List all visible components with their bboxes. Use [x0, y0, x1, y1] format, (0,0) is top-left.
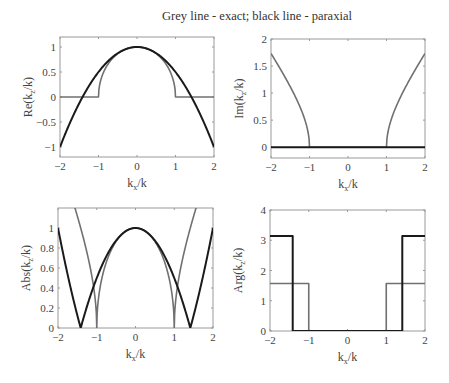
- series-paraxial-line: [60, 47, 214, 147]
- axes-box: [271, 39, 425, 158]
- series-exact-line: [60, 47, 214, 97]
- figure: Grey line - exact; black line - paraxial…: [0, 0, 449, 383]
- plot-imaginary-part: −2−101200.511.52kx/kIm(kz/k): [232, 33, 428, 193]
- y-tick-label: 1: [49, 222, 55, 234]
- y-tick-label: 1: [262, 87, 268, 99]
- x-axis-label: kx/k: [127, 176, 146, 192]
- series-paraxial-line: [58, 228, 213, 327]
- x-axis-label: kx/k: [126, 347, 145, 363]
- plot-absolute-value: −2−101200.20.40.60.81kx/kAbs(kz/k): [19, 155, 216, 363]
- axes-box: [58, 208, 213, 328]
- y-tick-label: 0: [49, 322, 55, 334]
- y-tick-label: 0.6: [40, 262, 54, 274]
- x-tick-label: 1: [173, 160, 179, 172]
- series-paraxial-line: [270, 236, 425, 331]
- x-axis-label: kx/k: [338, 350, 357, 366]
- y-axis-label: Abs(kz/k): [19, 245, 35, 291]
- x-tick-label: −1: [93, 160, 105, 172]
- series-exact-line: [271, 53, 425, 147]
- x-tick-label: 0: [134, 160, 140, 172]
- y-tick-label: 2: [261, 265, 267, 277]
- y-tick-label: 2: [262, 33, 268, 45]
- x-tick-label: 2: [211, 160, 217, 172]
- y-tick-label: 0.5: [42, 66, 56, 78]
- plot-real-part: −2−1012−1−0.500.51kx/kRe(kz/k): [21, 37, 217, 192]
- y-tick-label: 3: [261, 234, 267, 246]
- y-axis-label: Re(kz/k): [21, 77, 37, 117]
- x-tick-label: −1: [91, 331, 103, 343]
- y-axis-label: Arg(kz/k): [231, 248, 247, 293]
- y-tick-label: 1: [261, 295, 267, 307]
- y-tick-label: 0.4: [40, 282, 54, 294]
- y-tick-label: 0: [261, 325, 267, 337]
- y-tick-label: −0.5: [36, 116, 56, 128]
- y-tick-label: 0.2: [40, 302, 54, 314]
- x-tick-label: 1: [384, 334, 390, 346]
- x-tick-label: 0: [345, 161, 351, 173]
- x-tick-label: 1: [172, 331, 178, 343]
- y-tick-label: 0: [262, 141, 268, 153]
- x-tick-label: 2: [422, 161, 428, 173]
- plot-argument: −2−101201234kx/kArg(kz/k): [231, 204, 428, 366]
- y-tick-label: 4: [261, 204, 267, 216]
- x-tick-label: 0: [133, 331, 139, 343]
- y-tick-label: −1: [44, 141, 56, 153]
- x-tick-label: 0: [345, 334, 351, 346]
- x-tick-label: 2: [422, 334, 428, 346]
- x-axis-label: kx/k: [338, 177, 357, 193]
- y-tick-label: 0.5: [253, 114, 267, 126]
- y-tick-label: 1.5: [253, 60, 267, 72]
- x-tick-label: −2: [265, 161, 277, 173]
- y-tick-label: 1: [51, 41, 57, 53]
- x-tick-label: −1: [304, 161, 316, 173]
- y-tick-label: 0.8: [40, 242, 54, 254]
- y-axis-label: Im(kz/k): [232, 78, 248, 118]
- x-tick-label: −2: [54, 160, 66, 172]
- x-tick-label: −1: [303, 334, 315, 346]
- series-exact-line: [58, 155, 213, 328]
- y-tick-label: 0: [51, 91, 57, 103]
- x-tick-label: 2: [210, 331, 216, 343]
- x-tick-label: 1: [384, 161, 390, 173]
- figure-title: Grey line - exact; black line - paraxial: [162, 9, 352, 23]
